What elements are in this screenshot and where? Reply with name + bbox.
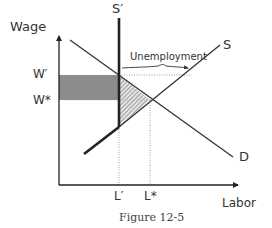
s-label: S: [223, 38, 231, 51]
l-star-label: L*: [144, 190, 157, 202]
w-prime-label: W′: [33, 68, 48, 80]
l-prime-label: L′: [114, 190, 123, 202]
unemployment-arrow: [122, 65, 188, 69]
w-star-label: W*: [33, 94, 51, 106]
labor-market-diagram: Wage S′ S D Unemployment W′ W* L′ L* Lab…: [0, 0, 272, 228]
figure-caption: Figure 12-5: [119, 212, 184, 223]
x-axis-label: Labor: [222, 197, 256, 209]
s-prime-label: S′: [112, 2, 123, 15]
unemployment-label: Unemployment: [130, 52, 207, 62]
y-axis-label: Wage: [10, 20, 46, 33]
wage-gap-area: [59, 75, 119, 100]
d-label: D: [239, 150, 249, 163]
deadweight-loss-triangle: [119, 75, 150, 127]
effective-supply-lower-segment: [84, 127, 119, 154]
diagram-canvas: [0, 0, 272, 228]
